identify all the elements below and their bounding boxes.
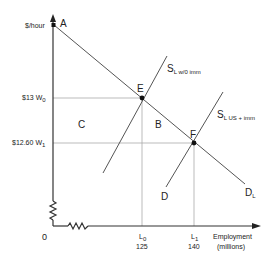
point-e-label: E <box>137 84 144 94</box>
x-axis-units: (millions) <box>217 243 245 250</box>
point-f-label: F <box>190 130 196 140</box>
origin-label: 0 <box>42 233 47 242</box>
point-f-marker <box>192 141 197 146</box>
diagram-canvas: $/hour 0 Employment (millions) $13 W0 $1… <box>0 0 270 261</box>
x-axis <box>53 223 253 229</box>
diagram-graphics <box>0 0 270 261</box>
region-d-label: D <box>161 192 168 202</box>
point-e-marker <box>140 96 145 101</box>
l1-value: 140 <box>188 243 200 250</box>
wage-w1-label: $12.60 W1 <box>12 139 45 148</box>
l0-value: 125 <box>136 243 148 250</box>
y-axis-arrow-icon <box>50 14 56 22</box>
demand-curve <box>54 25 245 184</box>
wage-w0-label: $13 W0 <box>22 94 46 103</box>
x-axis-arrow-icon <box>252 223 261 229</box>
supply-with-imm-label: SL US + imm <box>217 110 255 121</box>
y-axis-label: $/hour <box>25 22 45 29</box>
region-b-label: B <box>155 120 162 130</box>
l1-label: L1 <box>191 233 198 242</box>
point-a-label: A <box>60 19 67 29</box>
point-a-marker <box>52 23 56 27</box>
l0-label: L0 <box>139 233 146 242</box>
y-axis <box>50 20 56 226</box>
demand-label: DL <box>245 188 256 199</box>
supply-without-imm-label: SL w/0 imm <box>167 64 201 75</box>
region-c-label: C <box>78 120 85 130</box>
x-axis-label: Employment <box>213 233 252 240</box>
